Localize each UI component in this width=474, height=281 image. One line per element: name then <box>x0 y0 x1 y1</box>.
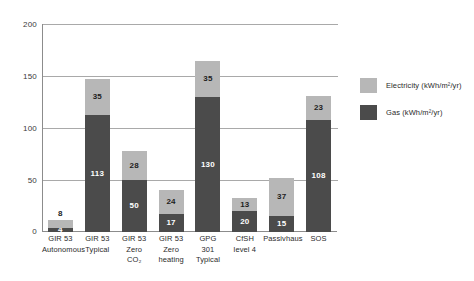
x-axis-label-line: Zero <box>116 245 153 256</box>
bar-segment-gas: 20 <box>232 211 257 232</box>
x-axis-label: SOS <box>300 234 337 245</box>
bar-segment-gas: 108 <box>306 120 331 232</box>
legend-swatch-electricity <box>360 78 377 93</box>
bar-segment-electricity: 23 <box>306 96 331 120</box>
bar-value-label-gas: 108 <box>312 172 326 180</box>
bar-value-label-gas: 15 <box>277 220 286 228</box>
x-axis-label-line: GIR 53 <box>79 234 116 245</box>
bar-group: 5028 <box>122 24 147 232</box>
bar-group: 11335 <box>85 24 110 232</box>
y-tick-label-150: 150 <box>23 72 37 81</box>
bar-value-label-electricity: 37 <box>277 193 286 201</box>
bar-value-label-gas: 130 <box>201 161 215 169</box>
bar-segment-gas: 17 <box>159 214 184 232</box>
bar-segment-electricity: 28 <box>122 151 147 180</box>
x-axis-label-line: GIR 53 <box>116 234 153 245</box>
bar-value-label-electricity: 23 <box>314 104 323 112</box>
y-tick-label-50: 50 <box>28 176 37 185</box>
bar-segment-electricity: 13 <box>232 198 257 211</box>
x-axis-label: GIR 53Autonomous <box>42 234 79 255</box>
bar-segment-gas: 130 <box>195 97 220 232</box>
x-axis-label-line: CfSH <box>226 234 263 245</box>
x-axis-label: GIR 53Zeroheating <box>153 234 190 266</box>
legend-label-electricity: Electricity (kWh/m²/yr) <box>386 81 462 90</box>
x-axis-label-line: CO₂ <box>116 255 153 266</box>
bar-group: 1537 <box>269 24 294 232</box>
bar-group: 10823 <box>306 24 331 232</box>
x-axis-labels: GIR 53AutonomousGIR 53TypicalGIR 53ZeroC… <box>42 234 337 278</box>
bar-value-label-electricity: 24 <box>166 198 175 206</box>
bar-value-label-electricity: 28 <box>130 162 139 170</box>
legend-swatch-gas <box>360 105 377 120</box>
x-axis-label-line: GPG <box>190 234 227 245</box>
bar-value-label-electricity: 35 <box>93 93 102 101</box>
bar-value-label-electricity: 35 <box>203 75 212 83</box>
x-axis-label-line: SOS <box>300 234 337 245</box>
bar-segment-gas: 50 <box>122 180 147 232</box>
y-tick-label-0: 0 <box>32 227 37 236</box>
bar-segment-gas: 15 <box>269 216 294 232</box>
bar-segment-gas: 4 <box>48 228 73 232</box>
x-axis-label-line: Typical <box>79 245 116 256</box>
bar-group: 2013 <box>232 24 257 232</box>
legend-item-gas: Gas (kWh/m²/yr) <box>360 105 472 120</box>
chart-legend: Electricity (kWh/m²/yr) Gas (kWh/m²/yr) <box>360 78 472 132</box>
bar-segment-electricity: 24 <box>159 190 184 215</box>
x-axis-label: CfSHlevel 4 <box>226 234 263 255</box>
bar-value-label-gas: 50 <box>130 202 139 210</box>
x-axis-label: GIR 53Typical <box>79 234 116 255</box>
bar-value-label-electricity: 13 <box>240 201 249 209</box>
x-axis-label-line: Autonomous <box>42 245 79 256</box>
x-axis-label-line: heating <box>153 255 190 266</box>
y-tick-label-200: 200 <box>23 20 37 29</box>
x-axis-label: GIR 53ZeroCO₂ <box>116 234 153 266</box>
bar-group: 48 <box>48 24 73 232</box>
bar-segment-electricity: 37 <box>269 178 294 216</box>
bar-segment-electricity: 35 <box>195 61 220 97</box>
x-axis-label-line: GIR 53 <box>42 234 79 245</box>
y-tick-label-100: 100 <box>23 124 37 133</box>
bar-group: 13035 <box>195 24 220 232</box>
x-axis-label-line: 301 <box>190 245 227 256</box>
x-axis-label-line: level 4 <box>226 245 263 256</box>
x-axis-label-line: Passivhaus <box>263 234 300 245</box>
x-axis-label-line: Typical <box>190 255 227 266</box>
legend-item-electricity: Electricity (kWh/m²/yr) <box>360 78 472 93</box>
bar-segment-gas: 113 <box>85 115 110 232</box>
legend-label-gas: Gas (kWh/m²/yr) <box>386 108 443 117</box>
x-axis-label-line: GIR 53 <box>153 234 190 245</box>
x-axis-label-line: Zero <box>153 245 190 256</box>
x-axis-label: Passivhaus <box>263 234 300 245</box>
bar-segment-electricity: 8 <box>48 220 73 228</box>
bar-value-label-gas: 20 <box>240 218 249 226</box>
bar-value-label-gas: 113 <box>91 170 105 178</box>
bar-value-label-electricity: 8 <box>58 210 63 218</box>
stacked-bar-chart: 200 150 100 50 0 48113355028172413035201… <box>0 0 474 281</box>
x-axis-label: GPG301Typical <box>190 234 227 266</box>
bar-value-label-gas: 17 <box>166 219 175 227</box>
bars-layer: 481133550281724130352013153710823 <box>42 24 337 232</box>
bar-segment-electricity: 35 <box>85 79 110 115</box>
bar-group: 1724 <box>159 24 184 232</box>
